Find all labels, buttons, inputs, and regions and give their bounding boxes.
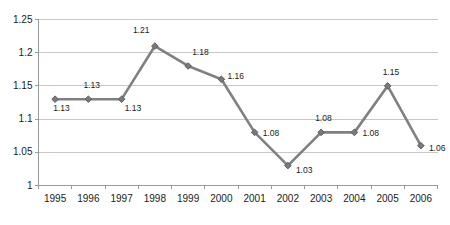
y-tick-label-1.1: 1.1 [19,114,33,124]
x-tick-label-2006: 2006 [401,194,441,204]
point-label-2006: 1.06 [429,144,446,153]
point-label-1998: 1.21 [133,26,150,35]
y-tick-label-1: 1 [27,181,33,191]
series-line [55,46,421,166]
point-label-1995: 1.13 [53,104,70,113]
point-label-2005: 1.15 [383,68,400,77]
y-tick-label-1.2: 1.2 [19,48,33,58]
line-chart: 11.051.11.151.21.25 19951996199719981999… [0,0,450,225]
data-point-marker-1996 [85,96,92,103]
point-label-1999: 1.18 [192,48,209,57]
data-point-marker-1995 [52,96,59,103]
point-label-1996: 1.13 [83,81,100,90]
point-label-2001: 1.08 [263,129,280,138]
point-label-2002: 1.03 [296,166,313,175]
point-label-2000: 1.16 [227,72,244,81]
y-tick-label-1.15: 1.15 [13,81,32,91]
y-tick-label-1.05: 1.05 [13,147,32,157]
point-label-1997: 1.13 [125,104,142,113]
point-label-2004: 1.08 [362,129,379,138]
point-label-2003: 1.08 [315,114,332,123]
y-tick-label-1.25: 1.25 [13,15,32,25]
